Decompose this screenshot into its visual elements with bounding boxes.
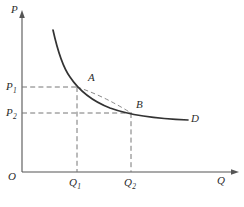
point-b-label: B [136,99,143,110]
tick-label-p1-base: P [6,80,13,92]
tick-label-p1-subscript: 1 [13,86,17,95]
tick-label-q2-base: Q [124,176,132,188]
point-a-label: A [88,72,95,83]
tick-label-p1: P1 [6,81,16,92]
origin-label: O [8,171,16,182]
tick-label-q1-base: Q [69,176,77,188]
tick-label-q2: Q2 [124,177,136,188]
chord-ab-dashed-line [77,87,131,113]
tick-label-q2-subscript: 2 [132,182,136,191]
demand-curve-figure: P Q O P1 P2 Q1 Q2 A B D [0,0,244,207]
tick-label-q1: Q1 [69,177,81,188]
curve-d-label: D [191,113,199,124]
tick-label-p2-subscript: 2 [13,112,17,121]
x-axis-arrow-icon [231,169,239,175]
demand-curve-plot [0,0,244,207]
tick-label-q1-subscript: 1 [77,182,81,191]
y-axis-arrow-icon [19,10,25,18]
x-axis-label: Q [217,175,225,186]
y-axis-label: P [11,4,18,15]
tick-label-p2-base: P [6,106,13,118]
tick-label-p2: P2 [6,107,16,118]
